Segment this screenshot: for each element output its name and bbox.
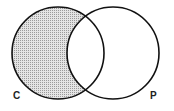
label-c: C (13, 90, 20, 101)
venn-diagram: C P (0, 0, 174, 111)
label-p: P (150, 90, 157, 101)
